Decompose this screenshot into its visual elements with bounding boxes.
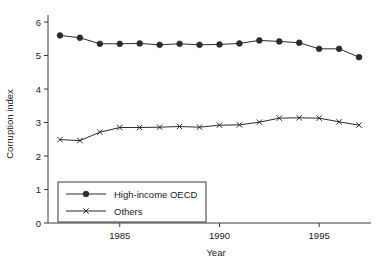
series-others	[57, 115, 361, 143]
data-point-marker-circle	[83, 191, 89, 197]
corruption-index-line-chart: 0123456 Corruption index 198519901995 Ye…	[0, 0, 387, 272]
series-polyline	[60, 118, 359, 141]
y-tick-label: 5	[36, 50, 41, 61]
x-axis-ticks: 198519901995	[109, 223, 330, 241]
data-point-marker-circle	[137, 41, 143, 47]
data-point-marker-circle	[197, 42, 203, 48]
data-point-marker-circle	[117, 41, 123, 47]
y-tick-label: 0	[36, 218, 41, 229]
x-axis-group: 198519901995 Year	[48, 223, 371, 258]
data-series-layer	[57, 33, 362, 144]
data-point-marker-circle	[77, 35, 83, 41]
y-tick-label: 4	[36, 84, 41, 95]
y-tick-label: 3	[36, 117, 41, 128]
x-tick-label: 1985	[109, 230, 130, 241]
data-point-marker-circle	[356, 54, 362, 60]
data-point-marker-circle	[237, 41, 243, 47]
data-point-marker-circle	[256, 38, 262, 44]
data-point-marker-circle	[157, 42, 163, 48]
x-tick-label: 1995	[309, 230, 330, 241]
series-high-income-oecd	[57, 33, 362, 61]
series-polyline	[60, 35, 359, 57]
y-tick-label: 1	[36, 184, 41, 195]
x-tick-label: 1990	[209, 230, 230, 241]
data-point-marker-circle	[336, 46, 342, 52]
data-point-marker-circle	[177, 41, 183, 47]
data-point-marker-circle	[276, 39, 282, 45]
chart-canvas: 0123456 Corruption index 198519901995 Ye…	[0, 0, 387, 272]
data-point-marker-circle	[97, 41, 103, 47]
data-point-marker-circle	[296, 40, 302, 46]
data-point-marker-circle	[316, 46, 322, 52]
legend-label-others: Others	[114, 206, 143, 217]
chart-legend: High-income OECDOthers	[58, 182, 206, 222]
y-axis-title: Corruption index	[4, 89, 15, 159]
x-axis-title: Year	[206, 247, 225, 258]
y-axis-group: 0123456 Corruption index	[4, 15, 48, 229]
y-axis-ticks: 0123456	[36, 17, 48, 229]
y-tick-label: 6	[36, 17, 41, 28]
legend-label-high-income-oecd: High-income OECD	[114, 189, 198, 200]
data-point-marker-circle	[57, 33, 63, 39]
data-point-marker-circle	[217, 42, 223, 48]
y-tick-label: 2	[36, 151, 41, 162]
